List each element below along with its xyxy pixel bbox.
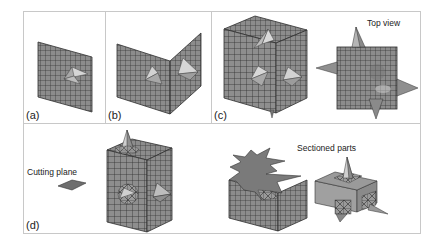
sectioned-part-upper xyxy=(315,157,388,222)
sectioned-part-lower xyxy=(229,148,307,231)
panel-label-c: (c) xyxy=(214,109,227,121)
annotation-top-view: Top view xyxy=(367,18,401,28)
panel-d-cube xyxy=(107,130,172,232)
figure-canvas: (a) (b) (c) Top view xyxy=(0,0,441,246)
cutting-plane xyxy=(58,180,86,190)
panel-c-top-view xyxy=(316,27,418,119)
annotation-sectioned-parts: Sectioned parts xyxy=(297,143,356,153)
panel-label-b: (b) xyxy=(108,109,121,121)
panel-label-d: (d) xyxy=(26,219,39,231)
panel-a-plane xyxy=(38,42,92,112)
annotation-cutting-plane: Cutting plane xyxy=(27,167,77,177)
panel-b-planes xyxy=(117,33,201,114)
panel-label-a: (a) xyxy=(26,109,39,121)
panel-c-cube xyxy=(224,16,307,118)
